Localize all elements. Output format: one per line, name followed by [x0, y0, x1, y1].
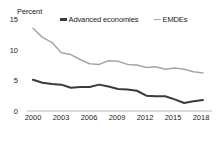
data-line-advanced-economies — [33, 80, 203, 103]
x-axis-tick-2012: 2012 — [130, 113, 160, 122]
chart-container: Percent 15 10 5 0 Advanced economies EMD… — [0, 0, 219, 141]
data-line-emdes — [33, 28, 203, 73]
x-axis-tick-2015: 2015 — [158, 113, 188, 122]
x-axis-tick-2003: 2003 — [46, 113, 76, 122]
x-axis-tick-2006: 2006 — [74, 113, 104, 122]
x-axis-tick-2018: 2018 — [186, 113, 216, 122]
x-axis-tick-2000: 2000 — [18, 113, 48, 122]
x-axis-tick-2009: 2009 — [102, 113, 132, 122]
